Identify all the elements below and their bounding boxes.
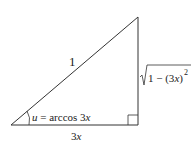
svg-text:1 − (3x): 1 − (3x) [148,72,183,85]
svg-text:2: 2 [184,68,188,77]
hypotenuse [11,17,138,125]
angle-arc [27,111,30,125]
hypotenuse-label: 1 [69,54,76,69]
angle-label: u = arccos 3x [32,111,91,123]
opposite-label: 1 − (3x) 2 [140,65,191,85]
right-angle-marker [128,115,138,125]
adjacent-label: 3x [71,130,82,142]
triangle-diagram: 1 u = arccos 3x 3x 1 − (3x) 2 [0,0,191,147]
